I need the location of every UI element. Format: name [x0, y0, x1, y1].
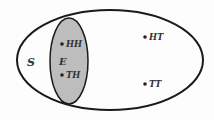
event-ellipse [50, 18, 88, 104]
venn-diagram: S E HH TH HT TT [0, 0, 214, 120]
outcome-dot-hh [60, 42, 64, 46]
sample-space-label: S [27, 56, 35, 69]
outcome-dot-th [60, 73, 64, 77]
event-label: E [58, 56, 67, 67]
sample-space-ellipse [17, 10, 203, 110]
outcome-label-th: TH [66, 70, 81, 80]
outcome-dot-ht [143, 35, 147, 39]
outcome-dot-tt [143, 82, 147, 86]
outcome-label-hh: HH [65, 39, 83, 49]
outcome-label-tt: TT [149, 79, 162, 89]
outcome-label-ht: HT [148, 32, 164, 42]
